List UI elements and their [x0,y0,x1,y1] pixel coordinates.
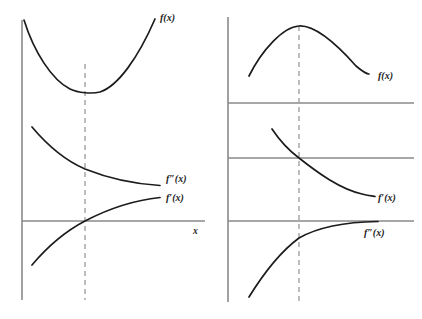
left-panel: f(x) f″(x) f′(x) x [22,12,205,300]
left-label-x-axis: x [192,226,198,236]
derivative-graphs-figure: f(x) f″(x) f′(x) x f(x) f′(x) f″(x) [0,0,422,319]
left-label-f: f(x) [160,12,175,24]
figure-container: f(x) f″(x) f′(x) x f(x) f′(x) f″(x) [0,0,422,319]
right-panel: f(x) f′(x) f″(x) [228,17,414,302]
right-label-f-prime: f′(x) [378,192,396,204]
right-curve-f [249,26,369,76]
left-label-f-prime: f′(x) [166,192,184,204]
left-curve-f-double-prime [32,127,160,186]
left-curve-f [24,19,155,93]
left-label-f-double-prime: f″(x) [166,173,187,185]
right-curve-f-prime [272,129,375,197]
right-label-f: f(x) [378,70,393,82]
right-curve-f-double-prime [249,222,378,298]
left-curve-f-prime [32,198,160,266]
right-label-f-double-prime: f″(x) [364,227,385,239]
